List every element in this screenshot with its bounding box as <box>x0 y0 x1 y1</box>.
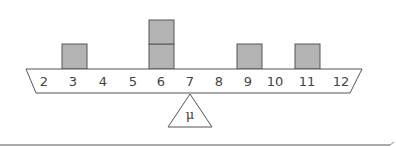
tick-label: 4 <box>99 74 107 89</box>
tick-label: 10 <box>267 74 284 89</box>
balance-beam-diagram: 2 3 4 5 6 7 8 9 10 11 12 μ <box>0 0 396 147</box>
tick-label: 6 <box>157 74 165 89</box>
tick-label: 11 <box>299 74 316 89</box>
box-value-11 <box>295 44 320 69</box>
box-value-6-upper <box>149 20 174 44</box>
box-value-9 <box>237 44 262 69</box>
tick-label: 7 <box>186 74 194 89</box>
fulcrum-label-mu: μ <box>186 107 194 122</box>
tick-label: 3 <box>69 74 77 89</box>
tick-label: 9 <box>244 74 252 89</box>
tick-label: 2 <box>40 74 48 89</box>
tick-label: 5 <box>129 74 137 89</box>
bottom-rule-corner <box>390 142 394 145</box>
data-boxes <box>62 20 320 69</box>
box-value-6-lower <box>149 44 174 69</box>
box-value-3 <box>62 44 87 69</box>
tick-label: 8 <box>215 74 223 89</box>
tick-label: 12 <box>333 74 350 89</box>
